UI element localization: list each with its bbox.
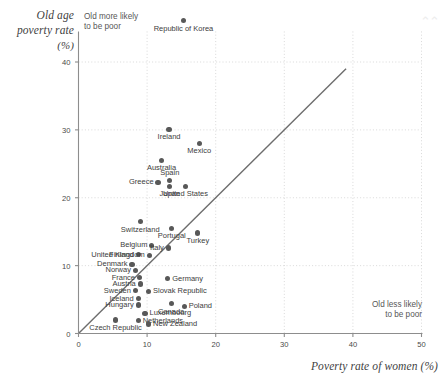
data-point[interactable] [146, 289, 151, 294]
y-tick-label: 20 [51, 194, 71, 203]
data-point-label: Belgium [120, 241, 147, 249]
x-tick-label: 0 [69, 340, 89, 349]
x-tick-label: 30 [274, 340, 294, 349]
data-point-label: Switzerland [121, 226, 160, 234]
data-point-label: Spain [160, 169, 179, 177]
x-tick-label: 10 [137, 340, 157, 349]
y-tick-label: 0 [51, 330, 71, 339]
data-point-label: Mexico [187, 147, 211, 155]
data-point[interactable] [138, 281, 143, 286]
data-point-label: Republic of Korea [154, 25, 214, 33]
data-point-label: Turkey [187, 237, 210, 245]
scatter-chart: ⌃⌃ Old agepoverty rate(%) Poverty rate o… [0, 0, 444, 374]
data-point[interactable] [136, 302, 141, 307]
data-point[interactable] [183, 184, 188, 189]
data-point[interactable] [142, 311, 147, 316]
data-point-label: Greece [129, 178, 154, 186]
data-point[interactable] [113, 317, 118, 322]
data-point-label: Portugal [158, 232, 186, 240]
x-tick-label: 40 [343, 340, 363, 349]
data-point-label: United States [163, 190, 208, 198]
data-point[interactable] [155, 180, 160, 185]
x-tick-label: 20 [206, 340, 226, 349]
plot-area [0, 0, 444, 374]
data-point[interactable] [169, 301, 174, 306]
data-point-label: Hungary [105, 301, 133, 309]
data-point[interactable] [166, 127, 171, 132]
y-tick-label: 30 [51, 126, 71, 135]
data-point[interactable] [138, 219, 143, 224]
data-point[interactable] [166, 245, 171, 250]
x-tick-label: 50 [412, 340, 432, 349]
data-point[interactable] [147, 253, 152, 258]
data-point-label: Slovak Republic [153, 287, 207, 295]
data-point[interactable] [159, 158, 164, 163]
data-point[interactable] [146, 321, 151, 326]
data-point-label: Poland [189, 302, 212, 310]
y-tick-label: 10 [51, 262, 71, 271]
data-point-label: New Zealand [153, 320, 197, 328]
data-point-label: United Kingdom [91, 251, 144, 259]
data-point-label: Italy [150, 244, 164, 252]
data-point-label: Ireland [158, 133, 181, 141]
data-point-label: Czech Republic [89, 324, 142, 332]
data-point-label: Germany [172, 275, 203, 283]
data-point[interactable] [197, 141, 202, 146]
y-tick-label: 40 [51, 58, 71, 67]
